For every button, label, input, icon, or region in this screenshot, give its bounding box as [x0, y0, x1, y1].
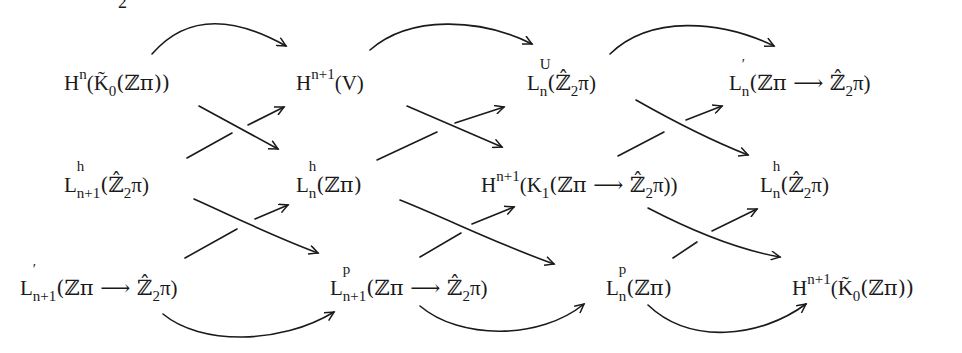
node-LUn-Z2: LUn(ℤ̂2π): [527, 73, 596, 94]
braid-diagram: 2: [0, 0, 962, 353]
arrow-r3c3-r3c4: [648, 304, 806, 332]
arrow-r1c3-r1c4: [610, 26, 774, 54]
arrow-r2c3-r3c4: [648, 208, 780, 257]
node-Lh-n-Z2: Lhn(ℤ̂2π): [760, 175, 829, 196]
node-Hn1-K0: Hn+1(K̃0(ℤπ)): [792, 278, 914, 299]
node-Hn1-V: Hn+1(V): [296, 73, 364, 94]
arrow-r1c3-r2c4: [636, 100, 748, 155]
arrow-r3c2-r3c3: [420, 304, 584, 331]
arrow-r2c3-r1c4: [618, 106, 722, 156]
node-Lp-n-Zpi: Lpn(ℤπ): [606, 278, 672, 299]
node-Lprime-n: L′n(ℤπ ⟶ ℤ̂2π): [729, 73, 871, 94]
arrow-r1c2-r1c3: [370, 24, 532, 50]
node-Lh-n1-Z2: Lhn+1(ℤ̂2π): [64, 175, 149, 196]
node-Hn1-K1: Hn+1(K1(ℤπ ⟶ ℤ̂2π)): [481, 175, 678, 196]
node-Lh-n-Zpi: Lhn(ℤπ): [296, 175, 362, 196]
node-Lprime-n1: L′n+1(ℤπ ⟶ ℤ̂2π): [20, 278, 178, 299]
arrow-r3c3-r2c4: [673, 209, 757, 258]
arrow-r1c1-r1c2: [152, 24, 286, 54]
arrow-r1c1-r2c2: [199, 106, 278, 149]
arrow-r2c2-r1c3: [377, 107, 504, 160]
arrow-r3c1-r3c2: [163, 312, 334, 337]
arrow-r2c1-r1c2: [187, 107, 284, 158]
node-Hn-K0: Hn(K̃0(ℤπ)): [64, 73, 170, 94]
arrow-r3c1-r2c2: [185, 205, 288, 258]
node-Lp-n1: Lpn+1(ℤπ ⟶ ℤ̂2π): [330, 278, 488, 299]
arrow-r2c1-r3c2: [194, 199, 318, 253]
